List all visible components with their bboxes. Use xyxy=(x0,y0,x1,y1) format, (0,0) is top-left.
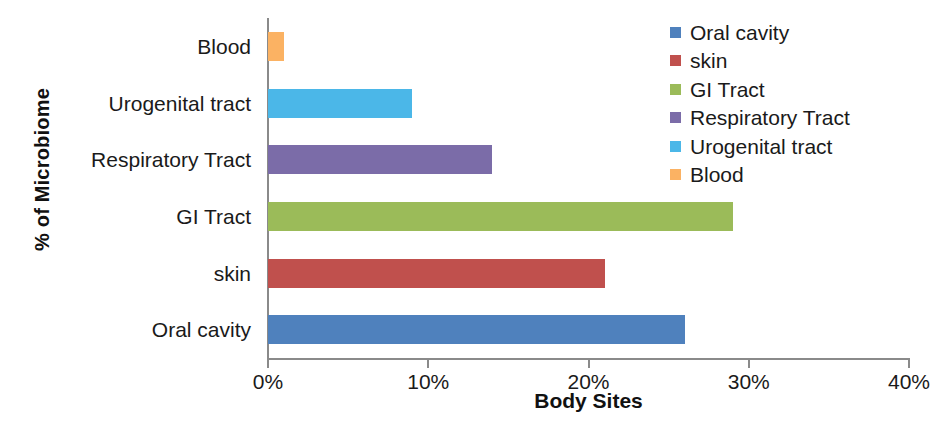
x-axis-tick xyxy=(908,360,910,368)
scan-edge xyxy=(0,436,950,442)
legend-item: Oral cavity xyxy=(670,18,940,47)
legend-item: skin xyxy=(670,47,940,76)
legend-swatch-icon xyxy=(670,141,681,152)
y-axis-tick-label: Blood xyxy=(197,32,251,61)
bar-row: GI Tract xyxy=(267,188,908,245)
legend-label: Oral cavity xyxy=(690,22,789,43)
x-axis-tick xyxy=(267,360,269,368)
legend-swatch-icon xyxy=(670,27,681,38)
x-axis-title: Body Sites xyxy=(267,389,910,413)
legend-item: Urogenital tract xyxy=(670,132,940,161)
legend-item: GI Tract xyxy=(670,75,940,104)
bar-chart-figure: % of Microbiome Oral cavityskinGI TractR… xyxy=(0,0,950,442)
x-axis-tick xyxy=(427,360,429,368)
bar xyxy=(268,32,284,61)
bar xyxy=(268,89,412,118)
legend-label: Urogenital tract xyxy=(690,136,832,157)
bar-row: skin xyxy=(267,245,908,302)
x-axis-tick xyxy=(588,360,590,368)
y-axis-tick-label: Oral cavity xyxy=(152,315,251,344)
legend-item: Respiratory Tract xyxy=(670,104,940,133)
bar-row: Oral cavity xyxy=(267,301,908,358)
bar xyxy=(268,259,605,288)
y-axis-tick-label: Urogenital tract xyxy=(109,89,251,118)
y-axis-title: % of Microbiome xyxy=(31,40,54,300)
y-axis-tick-label: Respiratory Tract xyxy=(91,145,251,174)
legend-swatch-icon xyxy=(670,55,681,66)
legend-label: skin xyxy=(690,50,727,71)
y-axis-tick-label: GI Tract xyxy=(176,202,251,231)
x-axis-tick xyxy=(748,360,750,368)
legend-swatch-icon xyxy=(670,169,681,180)
chart-legend: Oral cavityskinGI TractRespiratory Tract… xyxy=(670,18,940,189)
legend-swatch-icon xyxy=(670,112,681,123)
legend-label: GI Tract xyxy=(690,79,765,100)
bar xyxy=(268,315,685,344)
legend-label: Respiratory Tract xyxy=(690,107,850,128)
legend-item: Blood xyxy=(670,161,940,190)
legend-label: Blood xyxy=(690,164,744,185)
bar xyxy=(268,202,733,231)
bar xyxy=(268,145,492,174)
legend-swatch-icon xyxy=(670,84,681,95)
y-axis-tick-label: skin xyxy=(214,259,251,288)
